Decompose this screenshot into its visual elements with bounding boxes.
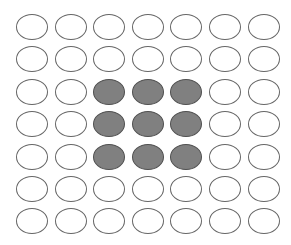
empty-circle [16,46,48,72]
empty-circle [209,14,241,40]
filled-circle [132,111,164,137]
empty-circle [55,208,87,234]
empty-circle [55,176,87,202]
empty-circle [16,176,48,202]
empty-circle [170,208,202,234]
empty-circle [16,208,48,234]
empty-circle [132,46,164,72]
empty-circle [248,111,280,137]
filled-circle [132,144,164,170]
empty-circle [132,14,164,40]
empty-circle [16,79,48,105]
filled-circle [170,111,202,137]
empty-circle [55,79,87,105]
filled-circle [93,111,125,137]
empty-circle [55,111,87,137]
empty-circle [93,14,125,40]
empty-circle [93,208,125,234]
empty-circle [16,111,48,137]
empty-circle [170,46,202,72]
empty-circle [16,144,48,170]
empty-circle [248,176,280,202]
empty-circle [132,208,164,234]
empty-circle [209,111,241,137]
empty-circle [209,46,241,72]
filled-circle [170,144,202,170]
empty-circle [132,176,164,202]
empty-circle [248,14,280,40]
empty-circle [93,176,125,202]
empty-circle [209,79,241,105]
filled-circle [132,79,164,105]
empty-circle [248,144,280,170]
empty-circle [248,79,280,105]
filled-circle [93,79,125,105]
empty-circle [55,144,87,170]
filled-circle [93,144,125,170]
empty-circle [55,14,87,40]
empty-circle [16,14,48,40]
empty-circle [170,14,202,40]
empty-circle [209,144,241,170]
empty-circle [248,46,280,72]
empty-circle [209,176,241,202]
empty-circle [170,176,202,202]
circle-grid [0,0,291,245]
empty-circle [55,46,87,72]
empty-circle [248,208,280,234]
filled-circle [170,79,202,105]
empty-circle [209,208,241,234]
empty-circle [93,46,125,72]
